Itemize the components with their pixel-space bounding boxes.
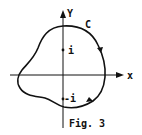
- curve-label: C: [85, 19, 91, 30]
- point-i: [62, 49, 65, 52]
- point-i-label: i: [68, 45, 74, 56]
- x-axis-label: x: [127, 70, 133, 81]
- y-axis-arrow-icon: [60, 10, 66, 18]
- x-axis-arrow-icon: [116, 72, 124, 78]
- point-minus-i-label: -i: [64, 93, 76, 104]
- figure-caption: Fig. 3: [69, 118, 105, 129]
- y-axis-label: Y: [67, 8, 73, 19]
- contour-diagram: Y x C i -i Fig. 3: [0, 0, 142, 135]
- curve-c: [18, 26, 105, 108]
- direction-arrow-icon: [97, 47, 103, 53]
